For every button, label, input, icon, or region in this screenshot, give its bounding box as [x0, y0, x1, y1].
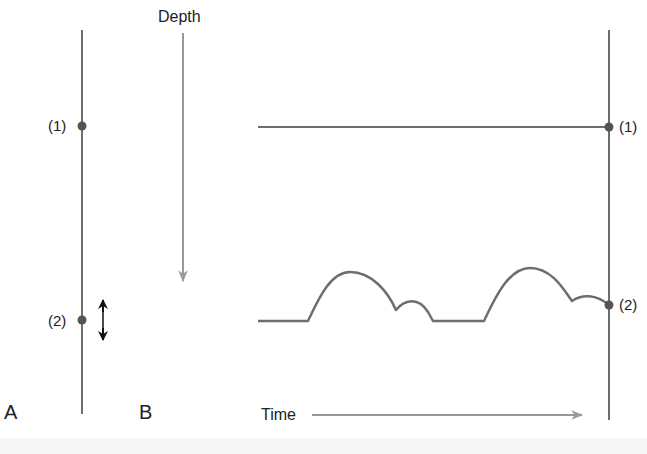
- point-2-label-right: (2): [619, 296, 637, 313]
- panel-a: (1) (2) A: [4, 30, 103, 423]
- panel-a-label: A: [4, 401, 18, 423]
- depth-label: Depth: [158, 8, 201, 25]
- time-label: Time: [261, 406, 296, 423]
- point-2-label-left: (2): [48, 312, 66, 329]
- diagram-canvas: (1) (2) A Depth B (1) (2): [0, 0, 647, 454]
- diagram-svg: (1) (2) A Depth B (1) (2): [0, 0, 647, 454]
- panel-b-label: B: [139, 401, 152, 423]
- time-axis: Time: [261, 406, 582, 423]
- point-1-dot-right: [605, 123, 614, 132]
- depth-axis: Depth: [158, 8, 201, 281]
- point-2-dot-left: [78, 316, 87, 325]
- point-2-dot-right: [605, 301, 614, 310]
- panel-b: (1) (2): [258, 30, 637, 420]
- point-1-label-left: (1): [48, 117, 66, 134]
- point-1-dot-left: [78, 122, 87, 131]
- trace-point-2: [258, 268, 609, 321]
- point-1-label-right: (1): [619, 118, 637, 135]
